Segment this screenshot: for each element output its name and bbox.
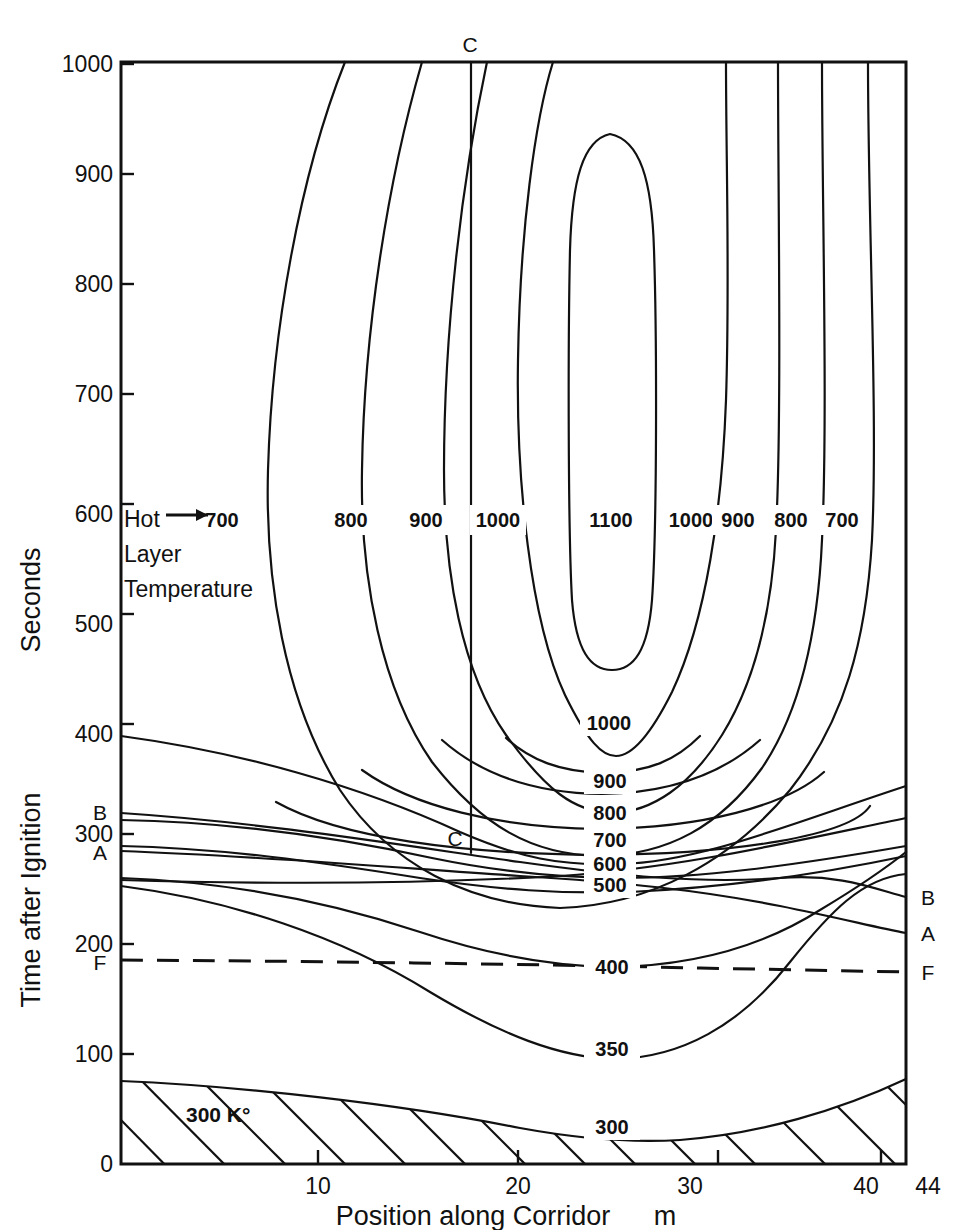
marker-C-top: C: [462, 33, 477, 56]
x-tick-10: 10: [305, 1173, 331, 1199]
contour-label-900-lower: 900: [593, 770, 626, 792]
marker-B-right: B: [921, 886, 935, 909]
curve-upper-left-diagonal: [121, 736, 906, 864]
x-axis-title: Position along Corridor: [336, 1201, 611, 1230]
contour-label-900-left: 900: [409, 509, 442, 531]
contour-line-350: [121, 874, 906, 1059]
contour-label-800-right: 800: [774, 509, 807, 531]
y-tick-0: 0: [100, 1151, 113, 1177]
contour-value-labels-lower: 1000 900 800 700 600 500 400 350 300: [580, 708, 640, 1140]
contour-line-1100: [569, 134, 656, 670]
x-axis-unit: m: [654, 1201, 677, 1230]
marker-A-left: A: [93, 841, 107, 864]
contour-line-600: [121, 820, 906, 878]
y-tick-600: 600: [75, 501, 113, 527]
plot-frame: [121, 62, 906, 1164]
contour-plot-svg: 1000 900 800 700 600 500 400 300 200 100…: [0, 0, 966, 1230]
curve-F-dashed: [121, 960, 906, 972]
contour-label-700-right: 700: [825, 509, 858, 531]
x-tick-30: 30: [677, 1173, 703, 1199]
marker-F-right: F: [922, 961, 935, 984]
contour-label-600-lower: 600: [593, 853, 626, 875]
marker-B-left: B: [93, 801, 107, 824]
annot-line-hot: Hot: [124, 506, 160, 532]
contour-label-400-lower: 400: [595, 956, 628, 978]
contour-label-1000-left: 1000: [476, 509, 521, 531]
contour-label-700-lower: 700: [593, 829, 626, 851]
contour-line-700: [268, 62, 874, 908]
y-tick-900: 900: [75, 161, 113, 187]
annot-line-temperature: Temperature: [124, 576, 253, 602]
y-tick-1000: 1000: [62, 51, 113, 77]
contour-label-1000-right: 1000: [669, 509, 714, 531]
contour-label-500-lower: 500: [593, 874, 626, 896]
marker-F-left: F: [94, 951, 107, 974]
annot-line-layer: Layer: [124, 541, 182, 567]
x-tick-40: 40: [853, 1173, 879, 1199]
marker-C-mid: C: [447, 827, 462, 850]
y-tick-500: 500: [75, 611, 113, 637]
y-tick-100: 100: [75, 1041, 113, 1067]
contour-label-800-left: 800: [334, 509, 367, 531]
contour-label-700-left: 700: [205, 509, 238, 531]
contour-line-1000: [518, 62, 728, 756]
x-tick-20: 20: [505, 1173, 531, 1199]
y-tick-700: 700: [75, 381, 113, 407]
contour-label-350-lower: 350: [595, 1038, 628, 1060]
contour-label-1000-lower: 1000: [587, 712, 632, 734]
hatch-region-label: 300 K°: [186, 1103, 250, 1126]
y-axis-title-seconds: Seconds: [16, 547, 46, 652]
x-tick-44: 44: [915, 1173, 941, 1199]
contour-line-900: [444, 62, 779, 813]
contour-value-labels-midband: 700 800 900 1000 1100 1000 900 800 700: [196, 505, 868, 535]
contour-label-1100: 1100: [589, 509, 632, 531]
marker-A-right: A: [921, 922, 935, 945]
contour-label-300-lower: 300: [595, 1116, 628, 1138]
y-tick-400: 400: [75, 721, 113, 747]
curve-A: [121, 851, 906, 933]
contour-label-900-right: 900: [721, 509, 754, 531]
y-tick-800: 800: [75, 271, 113, 297]
contour-label-800-lower: 800: [593, 802, 626, 824]
figure-root: 1000 900 800 700 600 500 400 300 200 100…: [0, 0, 966, 1230]
y-axis-title-time: Time after Ignition: [16, 792, 46, 1007]
contour-line-800: [362, 62, 825, 856]
